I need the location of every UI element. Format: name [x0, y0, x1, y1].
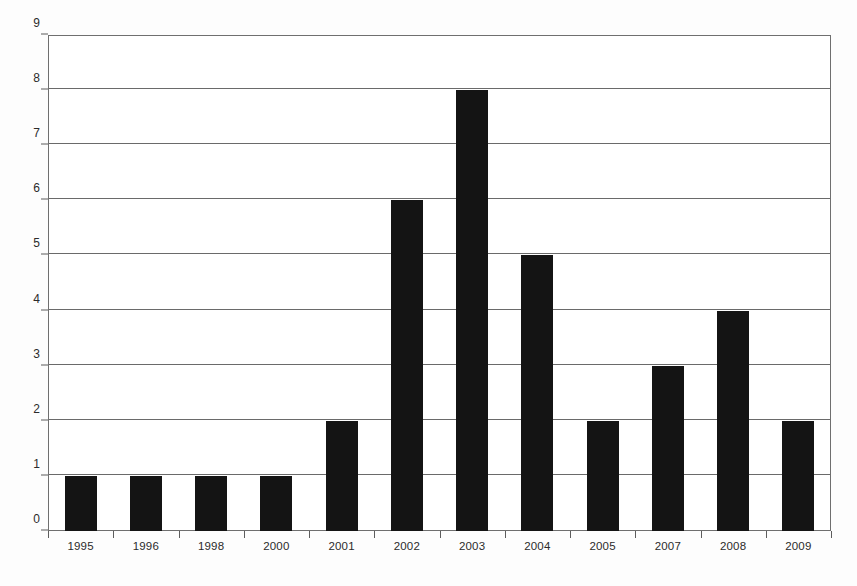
x-tick-mark-12	[831, 531, 832, 538]
bar-slot-2005	[570, 35, 635, 531]
x-tick-label-2001: 2001	[309, 540, 374, 552]
bar-chart-figure: 0123456789 19951996199820002001200220032…	[0, 0, 857, 586]
bar-slot-2007	[635, 35, 700, 531]
y-tick-label-9: 9	[0, 17, 40, 29]
bar-slot-2009	[766, 35, 831, 531]
x-axis-ticks	[48, 531, 831, 538]
x-tick-mark-10	[701, 531, 702, 538]
y-tick-label-1: 1	[0, 458, 40, 470]
y-tick-mark-5	[41, 254, 48, 255]
y-tick-label-2: 2	[0, 403, 40, 415]
bar-2009	[782, 421, 814, 531]
x-tick-mark-0	[48, 531, 49, 538]
x-tick-label-2004: 2004	[505, 540, 570, 552]
x-tick-mark-11	[766, 531, 767, 538]
bar-1995	[65, 476, 97, 531]
y-tick-label-5: 5	[0, 237, 40, 249]
y-tick-mark-0	[41, 530, 48, 531]
y-tick-label-4: 4	[0, 293, 40, 305]
y-tick-label-3: 3	[0, 348, 40, 360]
x-tick-mark-3	[244, 531, 245, 538]
y-tick-label-8: 8	[0, 72, 40, 84]
bar-slot-2004	[505, 35, 570, 531]
bar-slot-1995	[48, 35, 113, 531]
x-tick-mark-7	[505, 531, 506, 538]
x-tick-label-2002: 2002	[374, 540, 439, 552]
bar-2003	[456, 90, 488, 531]
bar-slot-1996	[113, 35, 178, 531]
bar-1998	[195, 476, 227, 531]
x-tick-mark-1	[113, 531, 114, 538]
bars-group	[48, 35, 831, 531]
x-tick-label-2003: 2003	[440, 540, 505, 552]
x-tick-mark-4	[309, 531, 310, 538]
bar-slot-2002	[374, 35, 439, 531]
bar-2007	[652, 366, 684, 531]
y-axis: 0123456789	[0, 35, 40, 531]
bar-2004	[521, 255, 553, 531]
bar-slot-2001	[309, 35, 374, 531]
bar-2001	[326, 421, 358, 531]
x-tick-label-2009: 2009	[766, 540, 831, 552]
y-tick-mark-7	[41, 144, 48, 145]
x-tick-mark-6	[440, 531, 441, 538]
bar-slot-2003	[440, 35, 505, 531]
x-tick-label-1996: 1996	[113, 540, 178, 552]
y-tick-label-7: 7	[0, 127, 40, 139]
y-tick-mark-9	[41, 34, 48, 35]
x-axis-labels: 1995199619982000200120022003200420052007…	[48, 540, 831, 552]
bar-2008	[717, 311, 749, 531]
y-tick-mark-3	[41, 364, 48, 365]
bar-1996	[130, 476, 162, 531]
y-tick-mark-6	[41, 199, 48, 200]
x-tick-label-1998: 1998	[179, 540, 244, 552]
bar-slot-2000	[244, 35, 309, 531]
y-tick-mark-1	[41, 474, 48, 475]
y-tick-mark-8	[41, 89, 48, 90]
y-tick-mark-4	[41, 309, 48, 310]
bar-2002	[391, 200, 423, 531]
bar-slot-1998	[179, 35, 244, 531]
x-tick-mark-8	[570, 531, 571, 538]
x-tick-label-1995: 1995	[48, 540, 113, 552]
x-tick-label-2007: 2007	[635, 540, 700, 552]
x-tick-label-2000: 2000	[244, 540, 309, 552]
bar-slot-2008	[701, 35, 766, 531]
x-tick-label-2005: 2005	[570, 540, 635, 552]
x-tick-mark-2	[179, 531, 180, 538]
x-tick-label-2008: 2008	[701, 540, 766, 552]
y-tick-label-6: 6	[0, 182, 40, 194]
y-tick-mark-2	[41, 419, 48, 420]
bar-2005	[587, 421, 619, 531]
bar-2000	[260, 476, 292, 531]
y-tick-label-0: 0	[0, 513, 40, 525]
x-tick-mark-5	[374, 531, 375, 538]
x-tick-mark-9	[635, 531, 636, 538]
